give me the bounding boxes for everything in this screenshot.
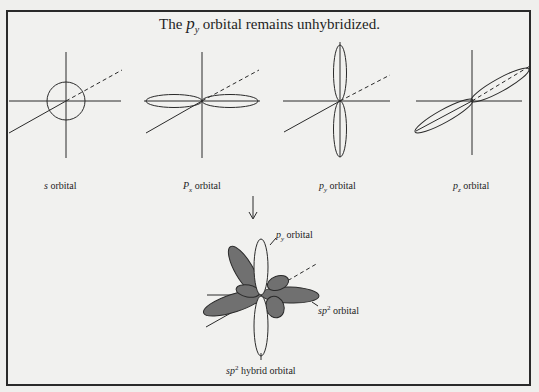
- sp2-hybrid-orbital-drawing: [201, 238, 319, 360]
- label-superscript: 2: [327, 304, 331, 312]
- hybrid-caption: sp2 hybrid orbital: [226, 364, 296, 376]
- label-text: hybrid orbital: [241, 365, 296, 376]
- hybrid-py-label: py orbital: [276, 229, 313, 243]
- label-text: orbital: [195, 180, 221, 191]
- label-text: orbital: [287, 229, 313, 240]
- label-subscript: x: [189, 186, 192, 194]
- label-text: orbital: [333, 305, 359, 316]
- label-subscript: y: [324, 186, 327, 194]
- label-symbol: s: [44, 180, 48, 191]
- label-text: orbital: [50, 180, 76, 191]
- label-superscript: 2: [235, 364, 239, 372]
- arrow-down-icon: [249, 196, 257, 219]
- s-orbital-label: s orbital: [44, 180, 77, 191]
- orbital-diagram: [0, 0, 539, 392]
- label-symbol: sp: [226, 365, 235, 376]
- label-subscript: z: [458, 186, 461, 194]
- px-orbital-label: Px orbital: [183, 180, 221, 194]
- label-text: orbital: [330, 180, 356, 191]
- pz-orbital-drawing: [412, 50, 532, 155]
- pz-orbital-label: pz orbital: [453, 180, 489, 194]
- label-subscript: y: [281, 235, 284, 243]
- hybrid-sp2-label: sp2 orbital: [318, 304, 359, 316]
- label-symbol: sp: [318, 305, 327, 316]
- s-orbital-drawing: [9, 52, 122, 158]
- py-orbital-label: py orbital: [319, 180, 356, 194]
- px-orbital-drawing: [144, 52, 260, 158]
- py-orbital-drawing: [283, 42, 390, 157]
- label-text: orbital: [463, 180, 489, 191]
